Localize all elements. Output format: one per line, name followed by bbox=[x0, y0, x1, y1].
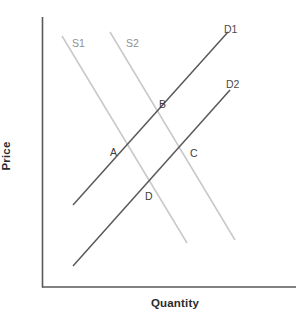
supply-demand-chart: Price Quantity S1 S2 D1 D2 A B C D bbox=[0, 0, 307, 321]
curve-s1 bbox=[62, 36, 187, 243]
curve-label-d1: D1 bbox=[224, 24, 237, 35]
chart-canvas bbox=[0, 0, 307, 321]
point-label-b: B bbox=[159, 99, 166, 110]
curve-label-s1: S1 bbox=[72, 38, 85, 49]
point-label-c: C bbox=[190, 148, 198, 159]
curve-label-d2: D2 bbox=[226, 79, 239, 90]
curve-s2 bbox=[110, 32, 235, 240]
y-axis-title: Price bbox=[0, 128, 12, 184]
x-axis-title: Quantity bbox=[115, 297, 235, 309]
point-label-d: D bbox=[145, 191, 153, 202]
point-label-a: A bbox=[110, 147, 117, 158]
curve-label-s2: S2 bbox=[126, 38, 139, 49]
